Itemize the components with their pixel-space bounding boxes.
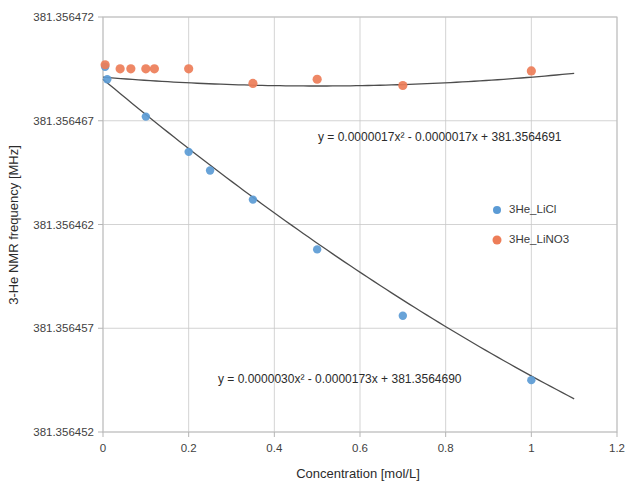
data-point — [126, 64, 135, 73]
equation-label-3he-lino3: y = 0.0000017x² - 0.0000017x + 381.35646… — [318, 130, 562, 144]
data-point — [184, 64, 193, 73]
data-point — [398, 81, 407, 90]
data-point — [142, 112, 150, 120]
data-point — [101, 60, 110, 69]
data-point — [141, 64, 150, 73]
x-axis-title: Concentration [mol/L] — [296, 466, 420, 481]
y-axis-tick-label: 381.356457 — [33, 322, 94, 334]
x-axis-tick-label: 0 — [100, 442, 106, 454]
x-axis-tick-label: 1.2 — [609, 442, 625, 454]
data-point — [313, 245, 321, 253]
data-point — [313, 75, 322, 84]
x-axis-tick-labels: 00.20.40.60.811.2 — [100, 442, 625, 454]
x-axis-tick-label: 0.2 — [181, 442, 197, 454]
x-axis-tick-label: 0.4 — [266, 442, 283, 454]
legend-label-3he-licl: 3He_LiCl — [509, 203, 556, 215]
y-axis-tick-label: 381.356452 — [33, 426, 94, 438]
y-axis-tick-label: 381.356462 — [33, 219, 94, 231]
data-point — [248, 79, 257, 88]
equation-label-3he-licl: y = 0.0000030x² - 0.0000173x + 381.35646… — [218, 372, 462, 386]
x-axis-tickmarks — [103, 432, 617, 437]
y-axis-title: 3-He NMR frequency [MHz] — [6, 145, 21, 305]
legend-marker-3he-lino3 — [493, 236, 502, 245]
y-axis-tickmarks — [98, 17, 103, 432]
nmr-frequency-scatter-chart: 381.356452381.356457381.356462381.356467… — [0, 0, 628, 485]
data-point — [184, 148, 192, 156]
chart-container: 381.356452381.356457381.356462381.356467… — [0, 0, 628, 485]
data-point — [150, 64, 159, 73]
data-point — [249, 195, 257, 203]
data-point — [116, 64, 125, 73]
y-axis-tick-label: 381.356472 — [33, 11, 94, 23]
data-point — [399, 312, 407, 320]
y-axis-tick-labels: 381.356452381.356457381.356462381.356467… — [33, 11, 94, 438]
x-axis-tick-label: 1 — [528, 442, 534, 454]
y-axis-tick-label: 381.356467 — [33, 115, 94, 127]
data-point — [527, 66, 536, 75]
data-point — [206, 166, 214, 174]
legend-marker-3he-licl — [493, 206, 501, 214]
x-axis-tick-label: 0.6 — [352, 442, 368, 454]
legend-label-3he-lino3: 3He_LiNO3 — [509, 233, 569, 245]
data-point — [527, 376, 535, 384]
x-axis-tick-label: 0.8 — [438, 442, 454, 454]
data-point — [103, 75, 111, 83]
